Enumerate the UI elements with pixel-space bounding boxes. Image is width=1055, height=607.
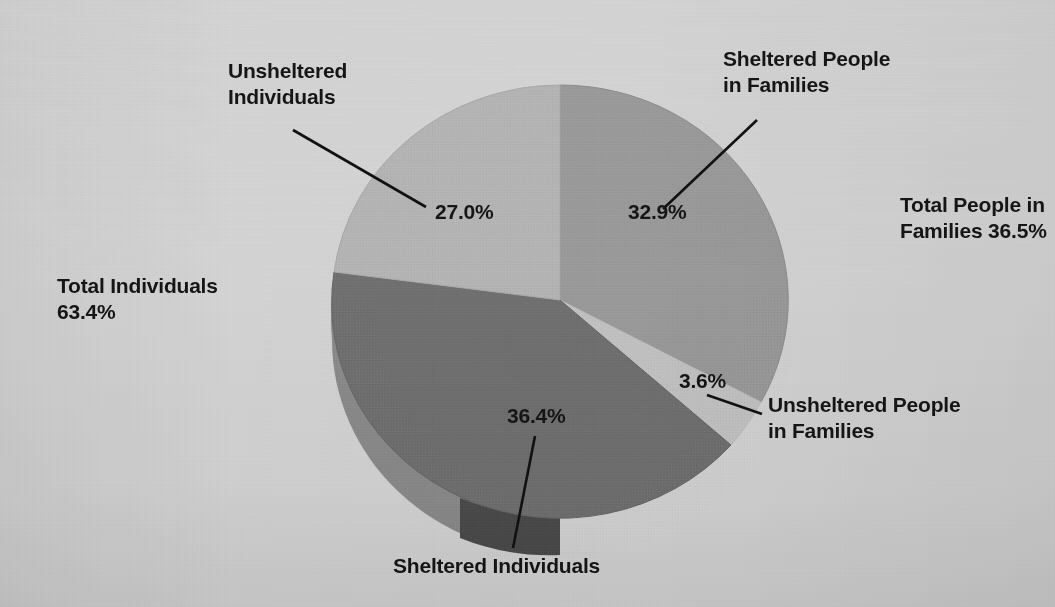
callout-sheltered-people-in-families: Sheltered Peoplein Families: [723, 46, 890, 97]
slice-value-unsheltered-people-in-families: 3.6%: [679, 368, 726, 394]
slice-value-sheltered-individuals: 36.4%: [507, 403, 566, 429]
slice-value-sheltered-people-in-families: 32.9%: [628, 199, 687, 225]
callout-unsheltered-individuals: UnshelteredIndividuals: [228, 58, 347, 109]
callout-sheltered-people-in-families-line2: in Families: [723, 73, 829, 96]
slice-value-unsheltered-individuals: 27.0%: [435, 199, 494, 225]
group-label-total-people-in-families-value: Families 36.5%: [900, 219, 1047, 242]
callout-sheltered-people-in-families-line1: Sheltered People: [723, 47, 890, 70]
group-label-total-individuals-name: Total Individuals: [57, 274, 218, 297]
group-label-total-individuals: Total Individuals63.4%: [57, 273, 218, 324]
pie-chart-figure: UnshelteredIndividuals Sheltered Peoplei…: [0, 0, 1055, 607]
callout-unsheltered-individuals-line1: Unsheltered: [228, 59, 347, 82]
callout-unsheltered-people-in-families-line1: Unsheltered People: [768, 393, 960, 416]
callout-sheltered-individuals-line1: Sheltered Individuals: [393, 554, 600, 577]
callout-unsheltered-people-in-families-line2: in Families: [768, 419, 874, 442]
group-label-total-individuals-value: 63.4%: [57, 300, 116, 323]
group-label-total-people-in-families-name: Total People in: [900, 193, 1045, 216]
callout-sheltered-individuals: Sheltered Individuals: [393, 553, 600, 579]
group-label-total-people-in-families: Total People inFamilies 36.5%: [900, 192, 1047, 243]
callout-unsheltered-people-in-families: Unsheltered Peoplein Families: [768, 392, 960, 443]
callout-unsheltered-individuals-line2: Individuals: [228, 85, 336, 108]
